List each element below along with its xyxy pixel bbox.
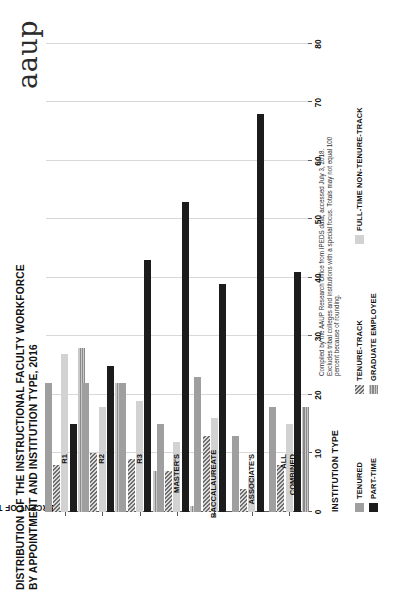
legend-item: TENURE-TRACK [355, 244, 364, 394]
y-axis-tick-label: 0 [308, 510, 323, 515]
bar [107, 366, 114, 512]
bar-group: R1 [46, 44, 83, 512]
bar [157, 424, 164, 512]
legend-item: FULL-TIME NON-TENURE-TRACK [355, 54, 364, 244]
category-label: ASSOCIATE'S [248, 454, 257, 518]
y-axis-tick-label: 10 [308, 449, 323, 458]
category-label: BACCALAUREATE [210, 454, 219, 518]
category-label: R1 [60, 454, 69, 518]
bar [257, 114, 264, 512]
legend-item: PART-TIME [369, 394, 378, 512]
y-axis-tick-label: 70 [308, 98, 323, 107]
page-title: DISTRIBUTION OF THE INSTRUCTIONAL FACULT… [14, 260, 40, 590]
bar-group: ALL COMBINED [271, 44, 308, 512]
legend-label: PART-TIME [369, 458, 378, 499]
legend-label: GRADUATE EMPLOYEE [369, 293, 378, 381]
bar [45, 383, 52, 512]
legend-swatch-icon [369, 385, 378, 394]
bar [70, 424, 77, 512]
category-label: MASTER'S [173, 454, 182, 518]
bar [82, 383, 89, 512]
bar-group: R3 [121, 44, 158, 512]
poster: DISTRIBUTION OF THE INSTRUCTIONAL FACULT… [0, 0, 402, 608]
legend-swatch-icon [355, 385, 364, 394]
bar-group: BACCALAUREATE [196, 44, 233, 512]
category-label: R2 [98, 454, 107, 518]
bar [53, 465, 60, 512]
legend-swatch-icon [355, 503, 364, 512]
legend-label: TENURED [355, 462, 364, 499]
category-label: R3 [135, 454, 144, 518]
rotated-page-wrapper: DISTRIBUTION OF THE INSTRUCTIONAL FACULT… [0, 0, 402, 608]
bar [302, 407, 309, 512]
bar-group: MASTER'S [158, 44, 195, 512]
y-axis-tick-label: 80 [308, 39, 323, 48]
bar [269, 407, 276, 512]
bar [144, 260, 151, 512]
legend-label: FULL-TIME NON-TENURE-TRACK [355, 107, 364, 231]
legend-label: TENURE-TRACK [355, 320, 364, 381]
bar [119, 383, 126, 512]
bar-group: ASSOCIATE'S [233, 44, 270, 512]
chart-plot-area: PERCENT OF TOTAL INSTRUCTIONAL FACULTY 0… [46, 44, 308, 512]
legend-item: TENURED [355, 394, 364, 512]
legend-item: GRADUATE EMPLOYEE [369, 244, 378, 394]
chart-legend: TENUREDTENURE-TRACKFULL-TIME NON-TENURE-… [352, 42, 380, 512]
y-axis-tick-label: 20 [308, 390, 323, 399]
bar [219, 284, 226, 512]
bar-group: R2 [83, 44, 120, 512]
source-note: Compiled by the AAUP Research Office fro… [318, 126, 341, 376]
bar [232, 436, 239, 512]
aaup-logo: aaup [12, 20, 43, 89]
category-label: ALL COMBINED [281, 454, 298, 518]
bar [128, 459, 135, 512]
bar [182, 202, 189, 512]
x-axis-label: INSTITUTION TYPE [330, 430, 340, 512]
bar [194, 377, 201, 512]
legend-swatch-icon [355, 235, 364, 244]
legend-swatch-icon [369, 503, 378, 512]
